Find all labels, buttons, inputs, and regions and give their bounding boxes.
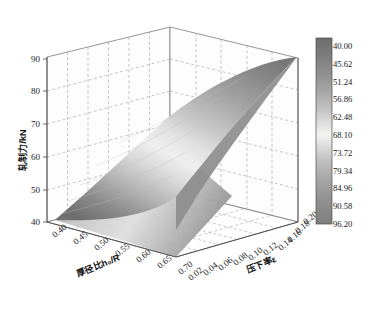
colorbar-tick-6: 73.72 — [333, 145, 379, 163]
z-axis-title: 轧制力/kN — [17, 129, 28, 170]
surface-chart-figure: 40 50 60 70 80 90 0.40 0.45 0.50 0.55 0.… — [0, 0, 379, 320]
colorbar-tick-4: 62.48 — [333, 109, 379, 127]
plot-canvas: 40 50 60 70 80 90 0.40 0.45 0.50 0.55 0.… — [0, 0, 379, 320]
z-tick-3: 70 — [31, 119, 41, 129]
colorbar[interactable] — [316, 38, 332, 224]
z-axis-ticks: 40 50 60 70 80 90 — [31, 54, 47, 227]
colorbar-tick-1: 45.62 — [333, 56, 379, 74]
colorbar-tick-9: 90.58 — [333, 198, 379, 216]
z-tick-4: 80 — [31, 86, 41, 96]
colorbar-tick-5: 68.10 — [333, 127, 379, 145]
x-axis-title: 厚径比h₀/R — [75, 251, 122, 278]
z-tick-0: 40 — [31, 217, 41, 227]
colorbar-tick-labels: 40.00 45.62 51.24 56.86 62.48 68.10 73.7… — [333, 38, 379, 224]
z-tick-2: 60 — [31, 152, 41, 162]
colorbar-tick-8: 84.96 — [333, 180, 379, 198]
colorbar-tick-10: 96.20 — [333, 216, 379, 234]
colorbar-tick-7: 79.34 — [333, 163, 379, 181]
z-tick-1: 50 — [31, 185, 41, 195]
y-tick-1: 0.04 — [201, 260, 220, 278]
colorbar-tick-3: 56.86 — [333, 91, 379, 109]
colorbar-tick-0: 40.00 — [333, 38, 379, 56]
y-tick-2: 0.06 — [216, 255, 235, 273]
colorbar-tick-2: 51.24 — [333, 74, 379, 92]
z-tick-5: 90 — [31, 54, 41, 64]
